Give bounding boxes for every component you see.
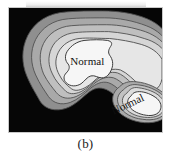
contour-image: Normal Normal	[8, 7, 163, 133]
label-normal-1: Normal	[70, 55, 104, 67]
contour-svg: Normal Normal	[9, 8, 162, 132]
figure-panel-b: Normal Normal (b)	[0, 0, 171, 162]
figure-caption: (b)	[0, 136, 171, 152]
